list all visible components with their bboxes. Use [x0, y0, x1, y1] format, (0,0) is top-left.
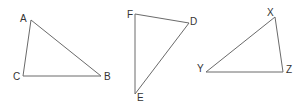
triangle-abc-shape	[23, 20, 101, 76]
vertex-label-x: X	[267, 7, 274, 18]
vertex-label-z: Z	[286, 64, 292, 75]
triangle-def-shape	[135, 14, 189, 94]
vertex-label-c: C	[13, 71, 20, 82]
vertex-label-b: B	[104, 71, 111, 82]
triangles-diagram: A B C D E F X Y Z	[0, 0, 304, 109]
vertex-label-e: E	[137, 92, 144, 103]
triangle-xyz: X Y Z	[197, 7, 292, 75]
vertex-label-f: F	[127, 9, 133, 20]
vertex-label-y: Y	[197, 63, 204, 74]
triangle-abc: A B C	[13, 13, 111, 82]
vertex-label-d: D	[190, 16, 197, 27]
vertex-label-a: A	[20, 13, 27, 24]
triangle-xyz-shape	[206, 17, 283, 72]
triangle-def: D E F	[127, 9, 197, 103]
